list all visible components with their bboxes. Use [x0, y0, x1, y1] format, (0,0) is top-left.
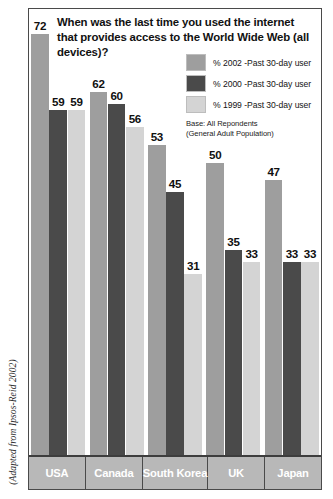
plot-area: 725959626056534531503533473333 USACanada… [29, 9, 321, 489]
category-label: Japan [277, 467, 308, 479]
bar-value-label: 45 [162, 177, 188, 190]
bar [90, 92, 108, 455]
attribution-text: (Adapted from Ipsos-Reid 2002) [8, 359, 18, 484]
bar-value-label: 72 [27, 19, 53, 32]
category-cell-canada: Canada [86, 457, 143, 489]
bar-value-label: 60 [104, 89, 130, 102]
bar [108, 104, 126, 455]
bar [243, 262, 261, 455]
attribution-source: (Adapted from Ipsos-Reid 2002) [0, 0, 26, 499]
bar-value-label: 33 [297, 247, 323, 260]
bar [68, 110, 86, 455]
bar [184, 274, 202, 455]
category-cell-south-korea: South Korea [143, 457, 208, 489]
category-cell-uk: UK [208, 457, 265, 489]
bar [148, 145, 166, 455]
category-cell-usa: USA [29, 457, 86, 489]
bar [265, 180, 283, 455]
bar-value-label: 50 [202, 148, 228, 161]
bar [166, 192, 184, 455]
category-axis-band: USACanadaSouth KoreaUKJapan [29, 457, 321, 489]
category-label: Canada [94, 467, 133, 479]
bar-value-label: 31 [180, 259, 206, 272]
bar [225, 250, 243, 455]
chart-panel: When was the last time you used the inte… [28, 8, 322, 490]
bar-value-label: 47 [261, 165, 287, 178]
bar-value-label: 56 [122, 112, 148, 125]
chart-figure: (Adapted from Ipsos-Reid 2002) When was … [0, 0, 333, 499]
bar [126, 127, 144, 455]
bar-layer: 725959626056534531503533473333 [29, 9, 321, 489]
bar [206, 163, 224, 456]
bar [301, 262, 319, 455]
category-label: South Korea [143, 467, 207, 479]
category-label: UK [228, 467, 244, 479]
bar-value-label: 53 [144, 130, 170, 143]
bar-value-label: 33 [239, 247, 265, 260]
category-cell-japan: Japan [265, 457, 321, 489]
bar-value-label: 59 [64, 95, 90, 108]
bar [49, 110, 67, 455]
bar [283, 262, 301, 455]
category-label: USA [45, 467, 68, 479]
